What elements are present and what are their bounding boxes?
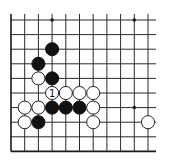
- white-stone: [87, 101, 100, 114]
- move-number-label: 1: [49, 88, 55, 99]
- white-stone-icon: [59, 86, 72, 99]
- white-stone-icon: [18, 101, 31, 114]
- white-stone-icon: [18, 116, 31, 129]
- star-point-icon: [133, 106, 137, 110]
- black-stone-icon: [32, 57, 45, 70]
- white-stone-icon: [87, 116, 100, 129]
- star-point-icon: [50, 18, 54, 22]
- white-stone: 1: [46, 86, 59, 99]
- white-stone: [18, 101, 31, 114]
- black-stone: [32, 57, 45, 70]
- white-stone: [73, 86, 86, 99]
- white-stone-icon: [73, 86, 86, 99]
- black-stone: [46, 43, 59, 56]
- black-stone: [46, 101, 59, 114]
- white-stone: [32, 72, 45, 85]
- black-stone: [73, 101, 86, 114]
- black-stone-icon: [32, 116, 45, 129]
- white-stone-icon: [32, 101, 45, 114]
- black-stone: [46, 72, 59, 85]
- white-stone: [59, 86, 72, 99]
- white-stone-icon: [32, 72, 45, 85]
- white-stone-icon: [141, 116, 154, 129]
- black-stone-icon: [46, 43, 59, 56]
- white-stone-icon: [87, 86, 100, 99]
- board-grid: [11, 14, 156, 151]
- white-stone: [87, 116, 100, 129]
- black-stone-icon: [46, 72, 59, 85]
- white-stone: [32, 101, 45, 114]
- black-stone-icon: [46, 101, 59, 114]
- white-stone: [141, 116, 154, 129]
- black-stone-icon: [59, 101, 72, 114]
- go-board: 1: [0, 0, 170, 167]
- black-stone-icon: [73, 101, 86, 114]
- black-stone: [32, 116, 45, 129]
- star-point-icon: [133, 18, 137, 22]
- white-stone-icon: [87, 101, 100, 114]
- black-stone: [59, 101, 72, 114]
- white-stone: [87, 86, 100, 99]
- white-stone: [18, 116, 31, 129]
